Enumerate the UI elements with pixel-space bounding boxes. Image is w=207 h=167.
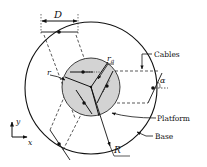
cable-anchor-top [57,30,61,34]
label-ra: ra [107,54,115,64]
label-cables: Cables [154,50,180,59]
platform-leader [112,113,156,118]
cable-anchor-bottom [57,142,61,146]
r-leader [50,75,65,80]
label-alpha: α [160,76,166,85]
label-r: r [47,68,52,77]
cables-leader [142,54,152,69]
label-D: D [53,9,62,20]
label-axis-y: y [15,117,21,126]
diagram-canvas: D r ra α R Cables Platform Base y x [0,0,207,167]
label-R: R [113,145,121,155]
label-axis-x: x [28,138,33,147]
label-platform: Platform [157,114,190,123]
cable-anchor-right [151,86,155,90]
label-base: Base [155,132,174,141]
